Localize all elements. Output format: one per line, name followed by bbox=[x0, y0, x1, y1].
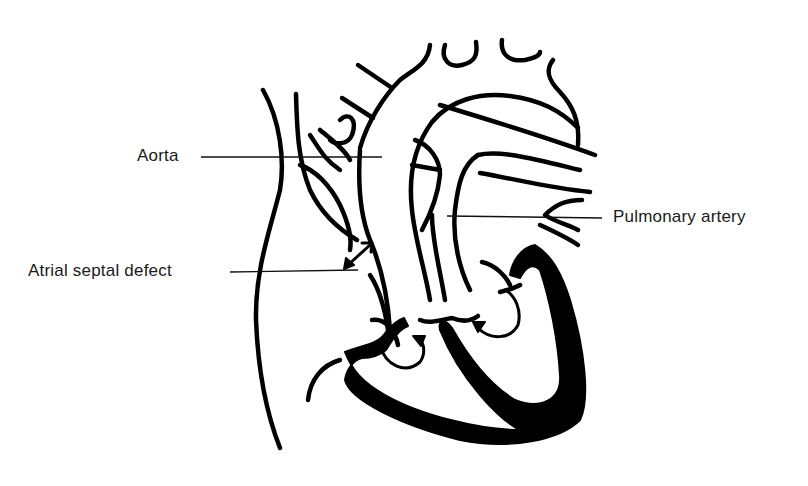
outer-ventricle-line bbox=[308, 360, 340, 400]
pulmonary-trunk-wall bbox=[454, 155, 478, 290]
pulmonary-branch-lower bbox=[480, 173, 590, 192]
pulmonary-leader-line bbox=[447, 216, 602, 218]
pulmonary-trunk-outer bbox=[432, 215, 445, 300]
mitral-flow-arrow bbox=[478, 290, 519, 337]
pulmonary-branch-mid bbox=[478, 153, 580, 170]
ductus-loop bbox=[415, 140, 440, 230]
pulmonary-valve-line bbox=[420, 316, 478, 322]
aorta-left-wall bbox=[359, 150, 390, 330]
asd-leader-line bbox=[230, 270, 358, 272]
aortic-arch-outer bbox=[360, 45, 430, 148]
arch-branch-line bbox=[549, 60, 579, 145]
arch-branch-line bbox=[502, 40, 540, 60]
heart-diagram: Aorta Atrial septal defect Pulmonary art… bbox=[0, 0, 808, 486]
pulmonary-vein-line bbox=[545, 200, 582, 230]
label-atrial-septal-defect: Atrial septal defect bbox=[28, 261, 172, 281]
mitral-valve-curve bbox=[482, 262, 510, 285]
arch-branch-line bbox=[358, 65, 392, 88]
vena-cava-outer-line bbox=[256, 90, 282, 448]
label-pulmonary-artery: Pulmonary artery bbox=[613, 207, 746, 227]
label-aorta: Aorta bbox=[137, 146, 179, 166]
arch-branch-line bbox=[444, 42, 477, 66]
ductus-line bbox=[412, 165, 440, 170]
